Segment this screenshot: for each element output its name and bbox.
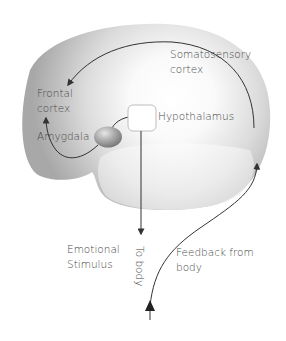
- label-emotional-line1: Emotional: [67, 243, 120, 255]
- label-frontal-line1: Frontal: [37, 87, 73, 99]
- label-frontal-line2: cortex: [37, 102, 70, 114]
- label-to-body: To body: [134, 246, 146, 286]
- label-somatosensory-line1: Somatosensory: [170, 48, 251, 60]
- label-hypothalamus: Hypothalamus: [158, 110, 234, 122]
- brain-lower-lobe: [98, 143, 254, 210]
- emotion-pathway-diagram: Somatosensory cortex Frontal cortex Amyg…: [0, 0, 286, 341]
- label-emotional-stimulus: Emotional Stimulus: [67, 243, 123, 270]
- label-feedback-line2: body: [176, 261, 202, 273]
- label-amygdala: Amygdala: [37, 130, 89, 142]
- label-feedback-line1: Feedback from: [176, 246, 254, 258]
- arrowhead-feedback-bottom: [145, 300, 155, 311]
- label-emotional-line2: Stimulus: [67, 258, 113, 270]
- hypothalamus-box: [128, 105, 156, 131]
- label-somatosensory-line2: cortex: [170, 63, 203, 75]
- amygdala-shape: [94, 127, 122, 148]
- label-feedback-from-body: Feedback from body: [176, 246, 257, 273]
